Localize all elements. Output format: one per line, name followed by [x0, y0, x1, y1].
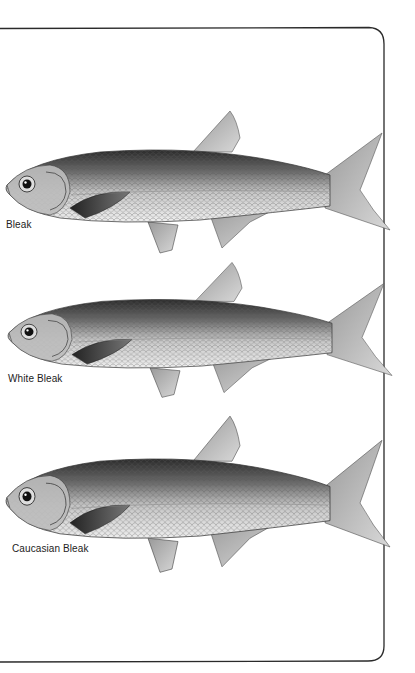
fish-label-caucasian-bleak: Caucasian Bleak — [12, 543, 89, 554]
fish-label-bleak: Bleak — [6, 219, 32, 230]
fish-illustration-bleak — [0, 100, 415, 260]
fish-label-white-bleak: White Bleak — [8, 373, 62, 384]
fish-illustration-white-bleak — [0, 252, 415, 412]
